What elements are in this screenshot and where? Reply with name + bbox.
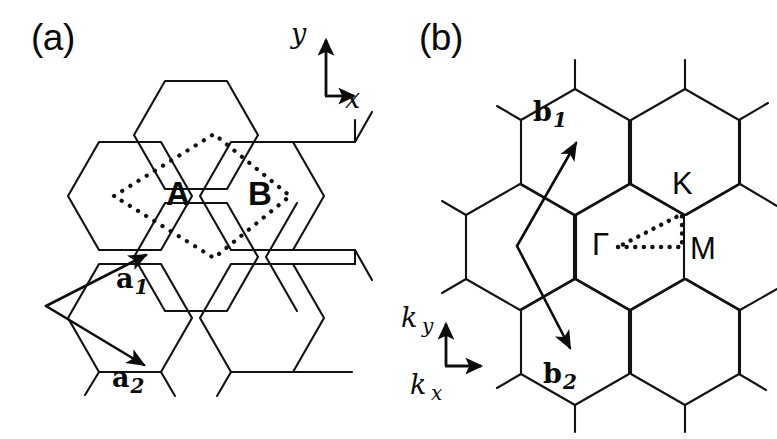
symmetry-point-gamma: Γ: [592, 229, 609, 260]
lattice-edge: [161, 372, 175, 396]
lattice-edge: [442, 201, 466, 215]
vector-subscript: 2: [131, 374, 145, 398]
lattice-vector-a2: [46, 306, 144, 365]
reciprocal-vector-label-b1: b1: [533, 98, 567, 130]
axis-subscript: x: [431, 381, 442, 405]
vector-base: a: [112, 362, 130, 393]
lattice-edge: [293, 112, 372, 142]
vector-subscript: 2: [563, 370, 577, 394]
lattice-edge: [442, 279, 466, 293]
vector-base: a: [116, 263, 134, 294]
lattice-edge: [85, 372, 99, 395]
sublattice-site-b: B: [248, 177, 272, 210]
axis-subscript: y: [422, 314, 433, 338]
axis-base: k: [410, 369, 426, 400]
sublattice-site-a: A: [166, 177, 190, 210]
lattice-vector-label-a1: a1: [116, 265, 148, 297]
vector-base: b: [533, 96, 552, 127]
axis-label-y: y: [291, 20, 306, 47]
reciprocal-vector-b1: [517, 143, 576, 246]
hexagon-a: [200, 264, 324, 372]
vector-base: b: [543, 358, 562, 389]
panel-label-b: (b): [419, 19, 463, 56]
lattice-edge: [739, 374, 766, 390]
reciprocal-vector-b2: [517, 246, 570, 348]
hexagon-a: [134, 203, 258, 311]
axis-label-x: x: [345, 85, 360, 112]
panel-b-lattice: [442, 60, 777, 432]
hexagon-b: [466, 184, 574, 310]
reciprocal-vector-label-b2: b2: [543, 360, 577, 392]
lattice-vector-label-a2: a2: [112, 364, 144, 396]
axes-k: [445, 324, 481, 366]
panel-a-lattice: [68, 81, 372, 396]
axis-label-kx: kx: [410, 371, 442, 403]
lattice-edge: [739, 103, 768, 120]
vector-subscript: 1: [135, 275, 149, 299]
axis-label-ky: ky: [401, 304, 433, 336]
symmetry-point-k: K: [672, 168, 693, 199]
high-symmetry-path: [618, 214, 682, 247]
axis-base: k: [401, 302, 417, 333]
lattice-edge: [497, 106, 521, 120]
hexagon-a: [134, 81, 258, 189]
lattice-edge: [497, 374, 521, 388]
hexagon-a-partial: [266, 203, 297, 311]
symmetry-point-m: M: [690, 233, 716, 264]
panel-label-a: (a): [31, 19, 75, 56]
vector-subscript: 1: [553, 108, 567, 132]
figure-root: (a) (b) A B a1 a2 y x Γ M K b1 b2 ky kx: [0, 0, 777, 439]
hexagon-b-partial: [686, 184, 777, 215]
lattice-edge: [217, 372, 231, 396]
hexagon-b-partial: [686, 279, 777, 310]
hexagon-b: [631, 279, 739, 405]
